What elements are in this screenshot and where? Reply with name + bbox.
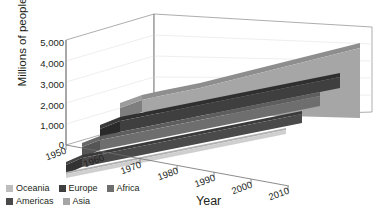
legend-item-africa[interactable]: Africa (107, 184, 140, 193)
legend-item-oceania[interactable]: Oceania (6, 184, 50, 193)
legend-swatch-icon (107, 185, 114, 192)
legend-swatch-icon (59, 185, 66, 192)
legend-swatch-icon (6, 198, 13, 205)
legend-row: Americas Asia (6, 195, 226, 208)
legend-item-asia[interactable]: Asia (63, 197, 91, 206)
legend-item-americas[interactable]: Americas (6, 197, 54, 206)
legend-label: Oceania (16, 184, 50, 193)
legend-row: Oceania Europe Africa (6, 182, 226, 195)
legend-label: Americas (16, 197, 54, 206)
legend-swatch-icon (63, 198, 70, 205)
legend-label: Europe (69, 184, 98, 193)
legend-swatch-icon (6, 185, 13, 192)
chart-legend: Oceania Europe Africa Americas Asia (6, 182, 226, 208)
legend-label: Asia (73, 197, 91, 206)
legend-label: Africa (117, 184, 140, 193)
chart-3d-area: Millions of people 5,000 4,000 3,000 2,0… (0, 0, 380, 217)
legend-item-europe[interactable]: Europe (59, 184, 98, 193)
